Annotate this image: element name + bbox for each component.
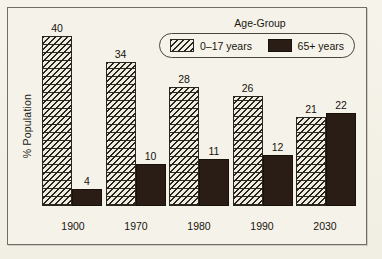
bar-wrap-1990-old: 12 bbox=[263, 22, 293, 206]
bar-group-1970: 34 10 bbox=[106, 22, 166, 206]
bar-2030-old bbox=[326, 113, 356, 206]
y-axis-title: % Population bbox=[21, 71, 33, 181]
bar-value-1900-young: 40 bbox=[51, 23, 63, 34]
bar-group-1900: 40 4 bbox=[42, 22, 102, 206]
bar-1970-young bbox=[106, 62, 136, 206]
plot-area: % Population Age-Group 0–17 years 65+ ye… bbox=[8, 8, 366, 244]
bar-1970-old bbox=[136, 164, 166, 206]
bar-1900-old bbox=[72, 189, 102, 206]
x-label-1900: 1900 bbox=[42, 220, 104, 232]
bar-value-1980-old: 11 bbox=[209, 146, 220, 157]
bar-value-2030-young: 21 bbox=[305, 104, 317, 115]
x-label-1970: 1970 bbox=[105, 220, 167, 232]
bar-groups: 40 4 34 10 bbox=[42, 22, 356, 206]
x-axis-labels: 1900 1970 1980 1990 2030 bbox=[42, 220, 356, 232]
bar-1990-old bbox=[263, 155, 293, 206]
bar-wrap-1900-old: 4 bbox=[72, 22, 102, 206]
bar-value-1900-old: 4 bbox=[84, 176, 90, 187]
bar-wrap-1970-young: 34 bbox=[106, 22, 136, 206]
bar-value-1970-old: 10 bbox=[145, 151, 157, 162]
chart-frame: % Population Age-Group 0–17 years 65+ ye… bbox=[7, 7, 367, 245]
bar-value-2030-old: 22 bbox=[335, 100, 347, 111]
x-label-2030: 2030 bbox=[294, 220, 356, 232]
bar-value-1980-young: 28 bbox=[178, 74, 190, 85]
bar-1980-old bbox=[199, 159, 229, 206]
bar-wrap-1900-young: 40 bbox=[42, 22, 72, 206]
bar-wrap-1970-old: 10 bbox=[136, 22, 166, 206]
bar-value-1990-young: 26 bbox=[242, 83, 254, 94]
bar-group-2030: 21 22 bbox=[296, 22, 356, 206]
bar-1980-young bbox=[169, 87, 199, 206]
bar-wrap-2030-young: 21 bbox=[296, 22, 326, 206]
bar-1900-young bbox=[42, 36, 72, 206]
x-label-1990: 1990 bbox=[231, 220, 293, 232]
bar-2030-young bbox=[296, 117, 326, 206]
bar-wrap-1990-young: 26 bbox=[233, 22, 263, 206]
bar-value-1990-old: 12 bbox=[272, 142, 284, 153]
bar-group-1990: 26 12 bbox=[233, 22, 293, 206]
bar-wrap-2030-old: 22 bbox=[326, 22, 356, 206]
chart-screenshot: % Population Age-Group 0–17 years 65+ ye… bbox=[0, 0, 382, 259]
x-label-1980: 1980 bbox=[168, 220, 230, 232]
bar-1990-young bbox=[233, 96, 263, 206]
bar-wrap-1980-young: 28 bbox=[169, 22, 199, 206]
bar-value-1970-young: 34 bbox=[115, 49, 127, 60]
bar-group-1980: 28 11 bbox=[169, 22, 229, 206]
bar-wrap-1980-old: 11 bbox=[199, 22, 229, 206]
